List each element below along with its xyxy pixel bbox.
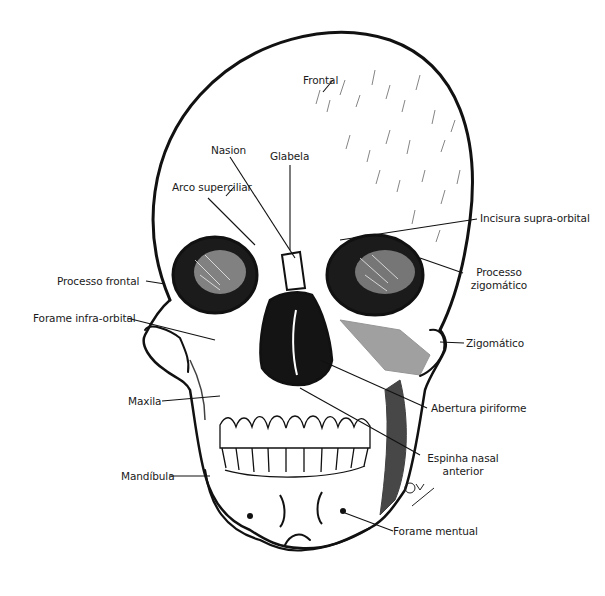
label-frontal: Frontal bbox=[303, 74, 338, 87]
label-processo-zigomatico-line2: zigomático bbox=[464, 279, 534, 292]
skull-drawing bbox=[0, 0, 605, 596]
label-forame-mentual: Forame mentual bbox=[393, 525, 478, 538]
label-processo-zigomatico: Processo zigomático bbox=[464, 266, 534, 292]
label-nasion: Nasion bbox=[211, 144, 246, 157]
label-glabela: Glabela bbox=[270, 150, 309, 163]
label-maxila: Maxila bbox=[128, 395, 161, 408]
teeth bbox=[220, 416, 370, 477]
label-abertura-piriforme: Abertura piriforme bbox=[431, 402, 526, 415]
label-espinha-nasal-line2: anterior bbox=[418, 465, 508, 478]
label-espinha-nasal-line1: Espinha nasal bbox=[418, 452, 508, 465]
artist-signature bbox=[405, 483, 434, 506]
label-arco-superciliar: Arco superciliar bbox=[172, 181, 252, 194]
label-processo-zigomatico-line1: Processo bbox=[464, 266, 534, 279]
label-forame-infra-orbital: Forame infra-orbital bbox=[33, 312, 136, 325]
label-processo-frontal: Processo frontal bbox=[57, 275, 139, 288]
label-incisura-supra-orbital: Incisura supra-orbital bbox=[480, 212, 590, 225]
label-zigomatico: Zigomático bbox=[466, 337, 524, 350]
label-espinha-nasal-anterior: Espinha nasal anterior bbox=[418, 452, 508, 478]
forame-mentual-right bbox=[247, 513, 253, 519]
skull-anatomy-figure: Frontal Nasion Glabela Arco superciliar … bbox=[0, 0, 605, 596]
label-mandibula: Mandíbula bbox=[121, 470, 175, 483]
